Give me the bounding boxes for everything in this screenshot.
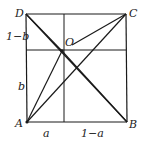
label-a: A [14, 117, 23, 130]
label-one-minus-b: 1−b [6, 30, 29, 43]
segment-ao [27, 51, 62, 122]
side-bc [126, 14, 127, 122]
label-b: B [128, 118, 137, 131]
geometry-diagram: D C A B O 1−b b a 1−a [0, 0, 148, 150]
label-d: D [14, 7, 24, 20]
label-a-length: a [43, 127, 50, 140]
segment-do [26, 14, 62, 51]
segment-oc [72, 14, 126, 45]
label-c: C [129, 7, 138, 20]
label-o: O [65, 36, 74, 49]
label-b-length: b [18, 80, 25, 93]
segment-ob [62, 51, 127, 122]
point-a-dot [25, 120, 28, 123]
point-o-dot [60, 49, 64, 53]
label-one-minus-a: 1−a [81, 127, 104, 140]
